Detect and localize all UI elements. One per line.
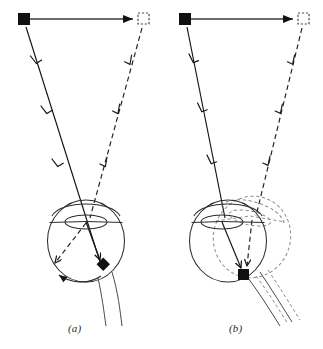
foveal-image-square-b [238,269,249,280]
initial-ray-line-a [26,27,100,262]
cornea-arc-a [52,204,120,216]
optic-nerve-lower-a [112,272,122,326]
figure-root: (a) (b) [0,0,323,349]
optic-nerve-upper-b [248,278,280,326]
optic-nerve-lower-b [260,272,292,322]
target-start-square-b [179,13,191,25]
eye-globe-rotated-b [204,187,301,287]
target-end-square-b [298,13,309,24]
eye-globe-a [48,200,125,282]
cornea-arc-b [194,204,262,216]
panel-a-initial-ray [26,27,100,262]
target-end-square-a [138,13,149,24]
panel-a-stimulus [18,13,149,25]
displaced-ray-chevron-3-b [263,156,270,165]
panel-b-displaced-ray [247,28,302,266]
optic-nerve-rotated-upper-b [256,276,288,324]
optic-nerve-rotated-lower-b [268,270,300,320]
foveal-image-diamond-a [97,258,110,271]
iris-chord-right-a [86,222,123,223]
displaced-ray-line-b [256,28,302,216]
initial-ray-chevron-3-b [207,155,217,164]
panel-b-eye [190,200,293,326]
panel-b-stimulus [179,13,309,25]
panel-b [179,13,309,326]
displaced-ray-refracted-b [247,220,252,266]
displaced-ray-line-a [90,28,142,218]
initial-ray-chevron-2-a [41,106,52,114]
iris-chord-rotated-b [216,216,285,222]
displaced-ray-chevron-2-a [113,104,120,114]
target-start-square-a [18,13,30,25]
panel-label-b: (b) [229,322,242,334]
iris-chord-left-b [192,222,223,223]
initial-ray-chevron-3-a [52,159,63,167]
optic-nerve-upper-a [98,278,106,326]
displaced-ray-chevron-1-a [125,55,132,64]
iris-chord-left-a [50,222,87,223]
panel-a-image-points [97,258,110,271]
panel-label-a: (a) [68,322,81,334]
panel-a [18,13,149,326]
figure-diagram [0,0,323,349]
initial-ray-line-b [187,27,225,218]
